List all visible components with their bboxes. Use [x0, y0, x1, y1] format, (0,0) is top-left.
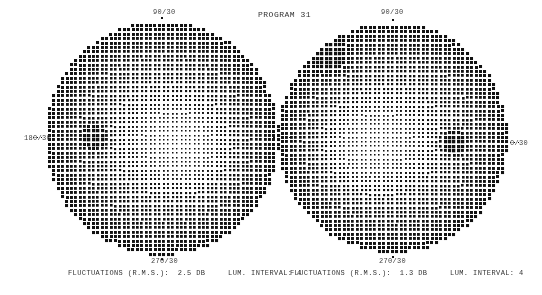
right-lum-interval-label: LUM. INTERVAL: [450, 269, 514, 277]
right-label-bottom: 270/30 [379, 257, 406, 265]
left-footer: FLUCTUATIONS (R.M.S.): 2.5 DB LUM. INTER… [68, 269, 302, 277]
right-footer: FLUCTUATIONS (R.M.S.): 1.3 DB LUM. INTER… [290, 269, 524, 277]
right-label-right: 0/30 [510, 139, 528, 147]
right-fluctuations-value: 1.3 DB [400, 269, 428, 277]
right-fluctuations-label: FLUCTUATIONS (R.M.S.): [290, 269, 391, 277]
visual-field-greyscale-plots [0, 0, 542, 295]
right-label-top: 90/30 [381, 8, 404, 16]
left-fluctuations-value: 2.5 DB [178, 269, 206, 277]
right-lum-interval-value: 4 [519, 269, 524, 277]
left-lum-interval-label: LUM. INTERVAL: [228, 269, 292, 277]
left-fluctuations-label: FLUCTUATIONS (R.M.S.): [68, 269, 169, 277]
left-label-top: 90/30 [153, 8, 176, 16]
left-label-left: 180/30 [24, 134, 51, 142]
left-label-bottom: 270/30 [151, 257, 178, 265]
program-title: PROGRAM 31 [258, 10, 311, 19]
